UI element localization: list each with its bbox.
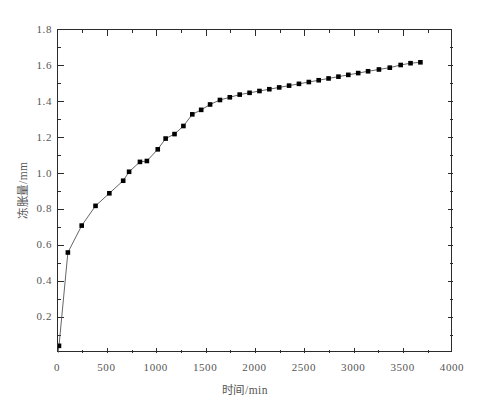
y-tick-label: 0.2 xyxy=(8,310,52,322)
data-point-marker xyxy=(418,60,423,65)
x-tick-label: 4000 xyxy=(440,361,464,373)
data-point-marker xyxy=(257,89,262,94)
data-point-marker xyxy=(190,112,195,117)
data-point-marker xyxy=(199,108,204,113)
y-tick-label: 1.2 xyxy=(8,131,52,143)
data-point-marker xyxy=(228,95,233,100)
plot-frame xyxy=(57,29,452,352)
data-point-marker xyxy=(408,61,413,66)
data-point-marker xyxy=(138,160,143,165)
y-tick-label: 1.4 xyxy=(8,95,52,107)
series-line xyxy=(58,62,420,353)
y-tick-label: 0.4 xyxy=(8,274,52,286)
data-point-marker xyxy=(145,159,150,164)
data-point-marker xyxy=(316,78,321,83)
data-point-marker xyxy=(326,76,331,81)
data-point-marker xyxy=(366,69,371,74)
data-point-marker xyxy=(336,74,341,79)
data-series-layer xyxy=(58,60,423,353)
data-point-marker xyxy=(79,223,84,228)
y-tick-label: 1.6 xyxy=(8,59,52,71)
plot-svg xyxy=(58,30,453,353)
data-point-marker xyxy=(346,73,351,78)
data-point-marker xyxy=(277,85,282,90)
data-point-marker xyxy=(297,82,302,87)
data-point-marker xyxy=(208,102,213,107)
x-tick-label: 3500 xyxy=(390,361,414,373)
tick-marks xyxy=(58,30,453,353)
data-point-marker xyxy=(218,98,223,103)
data-point-marker xyxy=(388,65,393,70)
data-point-marker xyxy=(398,63,403,68)
x-tick-label: 2500 xyxy=(292,361,316,373)
data-point-marker xyxy=(172,132,177,137)
x-axis-title: 时间/min xyxy=(0,381,490,397)
data-point-marker xyxy=(287,83,292,88)
data-point-marker xyxy=(307,80,312,85)
chart-figure: 0.20.40.60.81.01.21.41.61.8 050010001500… xyxy=(0,0,490,409)
data-point-marker xyxy=(66,250,71,255)
y-tick-label: 1.8 xyxy=(8,23,52,35)
data-point-marker xyxy=(267,87,272,92)
data-point-marker xyxy=(247,91,252,96)
data-point-marker xyxy=(377,67,382,72)
x-tick-label: 1500 xyxy=(193,361,217,373)
data-point-marker xyxy=(155,147,160,152)
data-point-marker xyxy=(163,136,168,141)
data-point-marker xyxy=(58,344,61,349)
data-point-marker xyxy=(107,191,112,196)
y-tick-label: 0.6 xyxy=(8,238,52,250)
x-tick-label: 1000 xyxy=(144,361,168,373)
data-point-marker xyxy=(127,169,132,174)
x-tick-label: 500 xyxy=(97,361,115,373)
x-tick-label: 3000 xyxy=(341,361,365,373)
data-point-marker xyxy=(237,92,242,97)
data-point-marker xyxy=(121,178,126,183)
data-point-marker xyxy=(356,71,361,76)
data-point-marker xyxy=(181,124,186,129)
y-axis-title: 冻胀量/mm xyxy=(14,161,30,218)
x-tick-label: 0 xyxy=(54,361,60,373)
x-tick-label: 2000 xyxy=(242,361,266,373)
data-point-marker xyxy=(93,204,98,209)
